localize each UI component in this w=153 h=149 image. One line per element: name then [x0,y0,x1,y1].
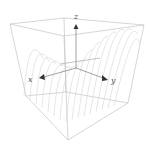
x-arrowhead-icon [39,74,45,80]
z-axis-label: z [73,12,79,21]
y-arrowhead-icon [102,75,108,81]
z-arrowhead-icon [74,24,79,29]
y-axis-label: y [110,76,116,85]
saddle-surface-plot: z x y [0,0,153,149]
x-axis-label: x [28,75,33,84]
saddle-surface [24,29,140,122]
